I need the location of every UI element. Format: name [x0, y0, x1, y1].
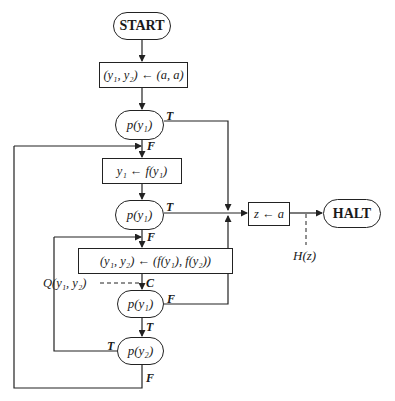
- cut-point-label: C: [146, 277, 154, 289]
- start-terminal: START: [113, 12, 171, 40]
- test2-label: p(y₁): [127, 207, 152, 223]
- step1-assignment-box: y₁ ← f(y₁): [102, 158, 182, 184]
- test1-false-label: F: [147, 140, 155, 152]
- decision-p-y1-second: p(y₁): [115, 200, 164, 230]
- halt-terminal: HALT: [323, 199, 381, 228]
- test4-label: p(y₂): [128, 343, 153, 359]
- test1-true-label: T: [166, 110, 173, 122]
- step2-assignment-box: (y₁, y₂) ← (f(y₁), f(y₂)): [78, 248, 233, 274]
- test3-label: p(y₁): [128, 296, 153, 312]
- init-label: (y₁, y₂) ← (a, a): [103, 68, 183, 83]
- init-assignment-box: (y₁, y₂) ← (a, a): [99, 62, 188, 88]
- decision-p-y1-first: p(y₁): [115, 110, 164, 140]
- step2-label: (y₁, y₂) ← (f(y₁), f(y₂)): [100, 254, 211, 269]
- test3-true-label: T: [146, 321, 153, 333]
- step1-label: y₁ ← f(y₁): [117, 164, 167, 179]
- test3-false-label: F: [167, 293, 175, 305]
- invariant-label: Q(y₁, y₂): [43, 277, 86, 289]
- assign-z-box: z ← a: [248, 202, 290, 226]
- test4-false-label: F: [146, 372, 154, 384]
- test2-false-label: F: [147, 231, 155, 243]
- test4-true-label: T: [107, 340, 114, 352]
- decision-p-y2: p(y₂): [117, 337, 164, 365]
- decision-p-y1-third: p(y₁): [117, 290, 164, 318]
- start-label: START: [119, 18, 164, 34]
- test1-label: p(y₁): [127, 117, 152, 133]
- test2-true-label: T: [166, 201, 173, 213]
- assign-z-label: z ← a: [254, 207, 284, 222]
- halt-label: HALT: [333, 206, 371, 222]
- halt-assertion-label: H(z): [293, 250, 316, 262]
